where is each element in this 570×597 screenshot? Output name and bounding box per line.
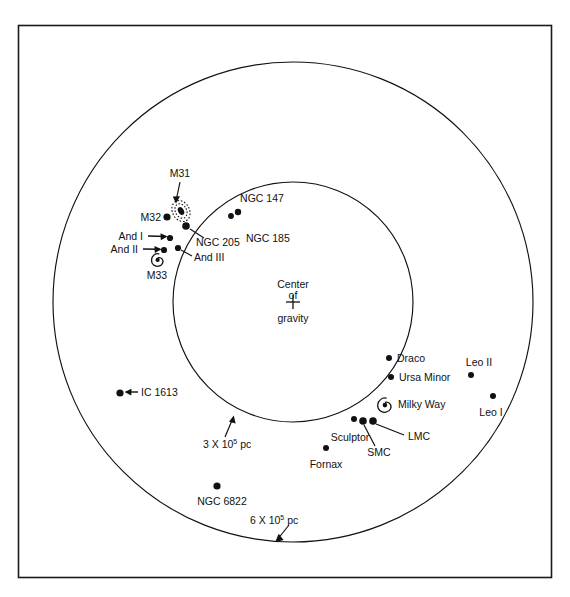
m33-spiral-icon [152, 254, 163, 267]
sculptor-label: Sculptor [331, 431, 370, 443]
fornax-label: Fornax [310, 458, 343, 470]
ngc-147-dot [235, 209, 241, 215]
ngc-185-dot [228, 213, 234, 219]
and-ii-leader-arrow [155, 246, 162, 253]
m32-dot [163, 213, 170, 220]
ic-1613-label: IC 1613 [141, 386, 178, 398]
figure-frame [19, 26, 552, 578]
m33-label: M33 [147, 269, 168, 281]
ngc-6822-dot [213, 482, 220, 489]
ursa-minor-dot [388, 374, 394, 380]
leo-i-label: Leo I [479, 406, 502, 418]
m31-spiral-icon [168, 197, 193, 224]
ngc-185-label: NGC 185 [246, 232, 290, 244]
outer-circle-scale-label: 6 X 105 pc [250, 514, 298, 526]
leo-ii-label: Leo II [466, 356, 492, 368]
smc-label: SMC [367, 446, 391, 458]
and-i-leader-arrow [161, 233, 168, 240]
and-ii-dot [161, 247, 167, 253]
local-group-diagram: Center of gravity M31 M32 NGC 205 And I … [0, 0, 570, 597]
m31-label: M31 [170, 167, 191, 179]
lmc-dot [369, 417, 377, 425]
and-i-label: And I [118, 230, 143, 242]
and-iii-dot [175, 245, 181, 251]
ngc-205-label: NGC 205 [196, 236, 240, 248]
and-i-dot [167, 235, 173, 241]
sculptor-dot [351, 416, 357, 422]
smc-dot [359, 417, 367, 425]
center-of-gravity-label-line3: gravity [278, 312, 310, 324]
milky-way-label: Milky Way [398, 398, 446, 410]
ursa-minor-label: Ursa Minor [399, 371, 451, 383]
leo-i-dot [490, 393, 496, 399]
m31-leader-arrow [173, 196, 180, 203]
leo-ii-dot [468, 372, 474, 378]
m32-label: M32 [141, 211, 162, 223]
inner-circle-leader-arrow [229, 416, 236, 424]
and-iii-label: And III [194, 251, 224, 263]
ic-1613-dot [116, 389, 123, 396]
fornax-dot [323, 445, 329, 451]
ngc-147-label: NGC 147 [240, 192, 284, 204]
lmc-label: LMC [408, 430, 431, 442]
center-of-gravity-label-line2: of [289, 289, 298, 301]
ngc-205-dot [182, 222, 190, 230]
ngc-6822-label: NGC 6822 [197, 495, 247, 507]
inner-circle-scale-label: 3 X 105 pc [203, 438, 251, 450]
draco-dot [386, 355, 392, 361]
and-ii-label: And II [111, 243, 138, 255]
outer-circle-leader-arrow [275, 534, 283, 543]
figure-page: Center of gravity M31 M32 NGC 205 And I … [0, 0, 570, 597]
milky-way-spiral-icon [378, 398, 391, 412]
ic-1613-leader-arrow [125, 389, 132, 396]
draco-label: Draco [397, 352, 425, 364]
lmc-leader-line [376, 424, 404, 435]
